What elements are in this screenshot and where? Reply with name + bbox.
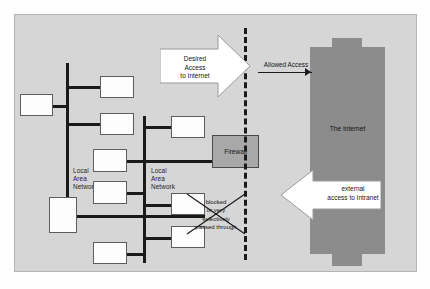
diagram-canvas: Local Area Network Local Area Network Fi…	[0, 0, 430, 289]
lan-right-branch-5	[143, 237, 173, 240]
lan-right-node-6	[93, 242, 127, 264]
lan-left-node-3	[20, 94, 53, 116]
lan-left-node-4	[49, 197, 77, 233]
lan-right-trunk	[143, 116, 146, 263]
firewall-box: Firewall	[212, 135, 259, 168]
lan-left-branch-1	[66, 86, 102, 89]
allowed-access-arrowhead	[305, 68, 311, 76]
lan-right-branch-4	[143, 204, 173, 207]
lan-right-branch-1	[143, 126, 173, 129]
internet-shape-body	[310, 47, 385, 254]
lan-left-branch-3	[51, 105, 69, 108]
blocked-annotation: blocked or very selectively passed throu…	[183, 192, 249, 238]
internet-label: The Internet	[310, 124, 385, 133]
lan-left-node-1	[100, 76, 134, 98]
lan-right-branch-3	[125, 192, 145, 195]
desired-access-label: Desired Access to Internet	[166, 55, 224, 81]
internet-shape-bottom-tab	[332, 253, 362, 266]
lan-right-node-1	[171, 116, 205, 138]
lan-left-node-2	[100, 113, 134, 135]
allowed-access-line	[258, 72, 312, 73]
external-access-label: external access to Intranet	[318, 185, 388, 202]
lan-right-label: Local Area Network	[151, 167, 175, 192]
lan-right-branch-6	[125, 253, 145, 256]
lan-right-node-2	[93, 149, 127, 172]
lan-left-branch-2	[66, 123, 102, 126]
lan-right-node-3	[93, 181, 127, 204]
blocked-annotation-label: blocked or very selectively passed throu…	[183, 198, 249, 232]
allowed-access-label: Allowed Access	[258, 61, 314, 68]
lan-right-branch-2	[125, 160, 213, 163]
